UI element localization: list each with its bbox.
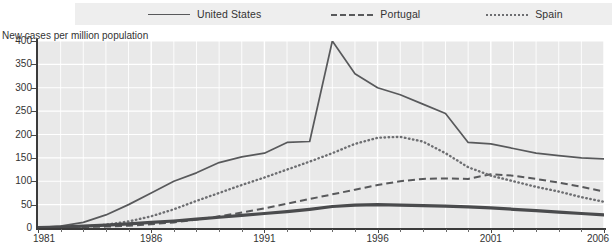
y-tick-label: 400 (2, 36, 32, 46)
y-tick-mark (31, 41, 36, 42)
legend-swatch-dashed-icon (331, 8, 373, 20)
x-tick-mark (151, 229, 152, 233)
y-tick-mark (31, 64, 36, 65)
plot-area (38, 41, 604, 228)
x-tick-mark (61, 229, 62, 232)
y-tick-label: 250 (2, 106, 32, 116)
x-tick-label: 1991 (253, 233, 275, 244)
y-tick-mark (31, 181, 36, 182)
x-tick-mark (332, 229, 333, 232)
x-tick-mark (536, 229, 537, 232)
y-tick-label: 350 (2, 59, 32, 69)
legend-item-portugal: Portugal (331, 3, 420, 25)
x-tick-mark (83, 229, 84, 232)
x-tick-mark (559, 229, 560, 232)
chart-canvas (38, 41, 604, 228)
x-tick-mark (446, 229, 447, 232)
y-tick-mark (31, 158, 36, 159)
x-tick-mark (219, 229, 220, 232)
x-tick-mark (423, 229, 424, 232)
x-tick-mark (604, 229, 605, 233)
legend-swatch-solid-icon (148, 8, 190, 20)
x-tick-mark (491, 229, 492, 233)
x-axis-line (36, 228, 606, 230)
x-tick-label: 1981 (33, 233, 55, 244)
x-tick-mark (264, 229, 265, 233)
legend-swatch-dotted-icon (486, 8, 528, 20)
x-tick-mark (513, 229, 514, 232)
y-tick-mark (31, 135, 36, 136)
x-tick-mark (38, 229, 39, 233)
chart-figure: United States Portugal Spain OECD New ca… (0, 0, 612, 250)
x-tick-mark (242, 229, 243, 232)
legend-label-spain: Spain (535, 8, 562, 20)
y-tick-mark (31, 111, 36, 112)
legend-item-united-states: United States (148, 3, 261, 25)
y-tick-label: 0 (2, 223, 32, 233)
x-tick-label: 1986 (140, 233, 162, 244)
y-axis-line (36, 39, 38, 230)
x-tick-mark (129, 229, 130, 232)
legend-label-portugal: Portugal (380, 8, 420, 20)
y-tick-label: 50 (2, 200, 32, 210)
x-tick-mark (400, 229, 401, 232)
legend-label-united-states: United States (197, 8, 261, 20)
x-tick-mark (106, 229, 107, 232)
x-tick-mark (174, 229, 175, 232)
x-tick-mark (310, 229, 311, 232)
x-tick-mark (468, 229, 469, 232)
y-tick-mark (31, 88, 36, 89)
y-tick-label: 300 (2, 83, 32, 93)
x-tick-mark (355, 229, 356, 232)
x-tick-mark (287, 229, 288, 232)
x-tick-label: 2001 (480, 233, 502, 244)
x-tick-mark (196, 229, 197, 232)
y-axis-tick-labels: 050100150200250300350400 (0, 0, 32, 250)
y-tick-label: 100 (2, 176, 32, 186)
x-tick-mark (581, 229, 582, 232)
x-tick-label: 1996 (366, 233, 388, 244)
gridlines (38, 41, 604, 228)
chart-legend: United States Portugal Spain OECD (75, 3, 612, 25)
y-tick-label: 150 (2, 153, 32, 163)
y-tick-label: 200 (2, 130, 32, 140)
y-tick-mark (31, 205, 36, 206)
x-tick-mark (378, 229, 379, 233)
legend-item-spain: Spain (486, 3, 562, 25)
x-tick-label: 2006 (587, 233, 609, 244)
